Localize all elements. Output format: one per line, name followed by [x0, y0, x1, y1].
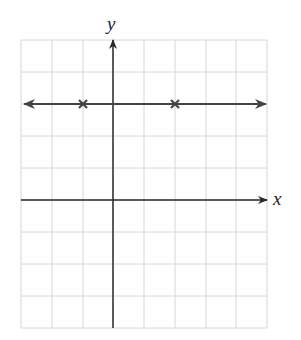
- grid: [21, 40, 267, 328]
- coordinate-plane: x y: [0, 0, 301, 340]
- x-axis-label: x: [272, 188, 282, 209]
- y-axis-label: y: [105, 13, 116, 34]
